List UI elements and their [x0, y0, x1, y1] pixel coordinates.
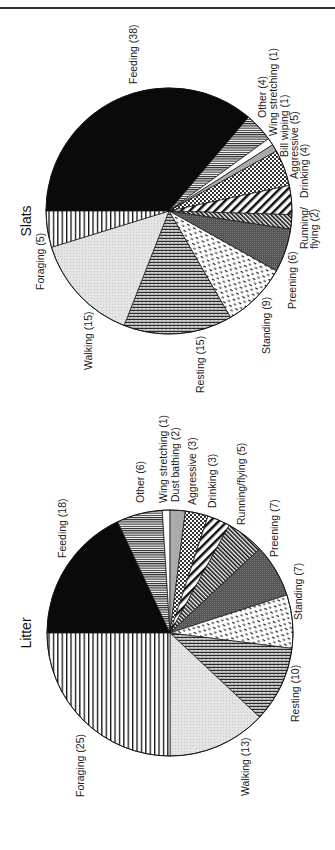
label-litter-wing-stretching: Wing stretching (1)	[157, 415, 169, 503]
chart-title-litter: Litter	[18, 617, 34, 648]
label-slats-preening: Preening (6)	[286, 251, 298, 309]
figure-canvas: Slats Feeding (38) Other (4) Wing stretc…	[0, 0, 335, 850]
label-slats-feeding: Feeding (38)	[127, 24, 139, 84]
pie-chart-litter	[47, 510, 293, 756]
label-slats-drinking: Drinking (4)	[298, 144, 310, 198]
label-slats-running-2: flying (2)	[308, 209, 320, 249]
pie-slice-foraging	[47, 633, 170, 756]
label-slats-standing: Standing (9)	[260, 297, 272, 354]
pie-chart-slats	[46, 88, 292, 334]
label-slats-resting: Resting (15)	[194, 336, 206, 393]
label-litter-dust-bathing: Dust bathing (2)	[169, 427, 181, 502]
label-litter-feeding: Feeding (18)	[56, 498, 68, 558]
label-slats-walking: Walking (15)	[82, 311, 94, 370]
label-litter-standing: Standing (7)	[292, 563, 304, 620]
label-litter-other: Other (6)	[134, 461, 146, 503]
label-litter-walking: Walking (13)	[239, 737, 251, 796]
label-litter-drinking: Drinking (3)	[206, 454, 218, 508]
chart-title-slats: Slats	[18, 205, 34, 236]
label-litter-running-flying: Running/flying (5)	[235, 443, 247, 525]
label-litter-aggressive: Aggressive (3)	[186, 437, 198, 505]
label-litter-resting: Resting (10)	[289, 665, 301, 722]
label-litter-preening: Preening (7)	[268, 499, 280, 557]
label-litter-foraging: Foraging (25)	[74, 734, 86, 797]
label-slats-foraging: Foraging (5)	[34, 233, 46, 290]
